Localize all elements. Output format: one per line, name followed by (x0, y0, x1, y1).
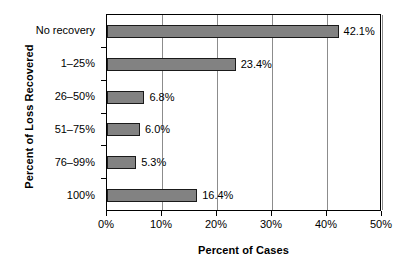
y-tick-label: 51–75% (55, 122, 95, 136)
bar-value-label: 6.0% (145, 123, 170, 136)
x-axis-tick (161, 211, 162, 216)
y-axis-minor-tick (101, 113, 106, 114)
bar-value-label: 5.3% (141, 156, 166, 169)
y-tick-label: 26–50% (55, 89, 95, 103)
x-tick-label: 0% (86, 218, 126, 230)
x-axis-title: Percent of Cases (106, 244, 381, 256)
x-axis-ticks: 0%10%20%30%40%50% (106, 211, 381, 241)
x-axis-tick (106, 211, 107, 216)
x-tick-label: 20% (196, 218, 236, 230)
y-axis-tick-labels: No recovery1–25%26–50%51–75%76–99%100% (0, 14, 101, 211)
bar (107, 189, 197, 202)
y-axis-minor-tick (101, 178, 106, 179)
gridline (382, 15, 383, 210)
bar-value-label: 6.8% (149, 91, 174, 104)
bar (107, 123, 140, 136)
bar-chart: Percent of Loss Recovered Percent of Cas… (0, 0, 410, 274)
x-tick-label: 10% (141, 218, 181, 230)
y-tick-label: 100% (67, 188, 95, 202)
x-axis-tick (326, 211, 327, 216)
bar (107, 58, 236, 71)
bar-value-label: 23.4% (241, 58, 272, 71)
bar (107, 91, 144, 104)
x-axis-tick (271, 211, 272, 216)
bars-layer: 42.1%23.4%6.8%6.0%5.3%16.4% (107, 15, 380, 210)
bar-value-label: 42.1% (344, 25, 375, 38)
y-tick-label: 76–99% (55, 155, 95, 169)
x-tick-label: 50% (361, 218, 401, 230)
x-tick-label: 40% (306, 218, 346, 230)
bar-value-label: 16.4% (202, 189, 233, 202)
x-tick-label: 30% (251, 218, 291, 230)
x-axis-tick (216, 211, 217, 216)
y-tick-label: 1–25% (61, 56, 95, 70)
plot-area: 42.1%23.4%6.8%6.0%5.3%16.4% (106, 14, 381, 211)
y-axis-minor-tick (101, 47, 106, 48)
bar (107, 25, 339, 38)
y-tick-label: No recovery (36, 23, 95, 37)
x-axis-tick (381, 211, 382, 216)
y-axis-minor-tick (101, 80, 106, 81)
bar (107, 156, 136, 169)
y-axis-minor-tick (101, 145, 106, 146)
